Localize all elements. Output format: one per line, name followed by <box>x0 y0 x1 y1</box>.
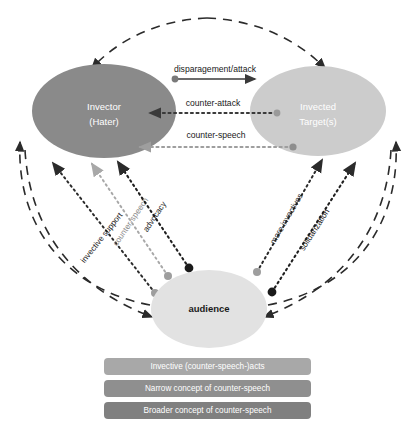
legend-item-0: Invective (counter-speech-)acts <box>104 358 311 375</box>
more-invectives-label: more invectives <box>269 192 305 246</box>
solidarization-label: solidarization <box>298 207 332 252</box>
invector-label-line2: (Hater) <box>89 116 119 127</box>
counter-attack-label: counter-attack <box>186 98 241 108</box>
top-dashed-arc-left-half <box>92 18 207 68</box>
legend-item-1: Narrow concept of counter-speech <box>104 380 311 397</box>
counter-speech-origin-dot <box>289 143 296 150</box>
disparagement-attack-label: disparagement/attack <box>174 64 257 74</box>
edge-disparagement-attack: disparagement/attack <box>172 64 257 82</box>
node-audience[interactable]: audience <box>151 270 267 348</box>
left-outer-arc-down <box>25 150 152 317</box>
counter-speech-horizontal-label: counter-speech <box>186 130 245 140</box>
legend-label-1: Narrow concept of counter-speech <box>145 384 271 393</box>
disparagement-origin-dot <box>172 76 179 83</box>
node-invected-target[interactable]: Invected Target(s) <box>250 66 386 156</box>
advocacy-origin-dot <box>185 264 194 273</box>
counter-speech-diagonal-origin-dot <box>164 272 172 280</box>
invected-target-label-line1: Invected <box>300 101 336 112</box>
diagram-svg: Invector (Hater) Invected Target(s) disp… <box>0 0 415 430</box>
more-invectives-origin-dot <box>253 268 261 276</box>
diagram-canvas: Invector (Hater) Invected Target(s) disp… <box>0 0 415 430</box>
invected-target-label-line2: Target(s) <box>299 116 336 127</box>
counter-attack-origin-dot <box>274 110 281 117</box>
legend-label-0: Invective (counter-speech-)acts <box>150 362 264 371</box>
legend-label-2: Broader concept of counter-speech <box>144 406 272 415</box>
invector-label-line1: Invector <box>87 101 121 112</box>
solidarization-origin-dot <box>268 288 277 297</box>
legend-item-2: Broader concept of counter-speech <box>104 402 311 419</box>
edge-more-invectives: more invectives <box>253 160 322 276</box>
top-dashed-arc-right-half <box>207 18 325 68</box>
node-invector[interactable]: Invector (Hater) <box>32 64 176 158</box>
audience-label: audience <box>188 303 229 314</box>
legend: Invective (counter-speech-)acts Narrow c… <box>104 358 311 419</box>
